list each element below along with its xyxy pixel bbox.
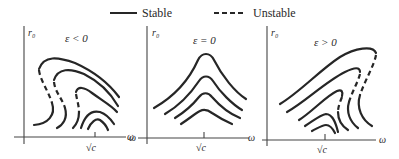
- r0-label: r₀: [28, 27, 36, 38]
- response-curve-stable: [181, 110, 232, 124]
- panel-title: ε < 0: [65, 32, 88, 44]
- sqrt-c-label: √c: [317, 144, 327, 155]
- response-curve-stable: [34, 103, 53, 125]
- panel-epsilon-positive: r₀ ε > 0 ω √c: [262, 26, 386, 155]
- legend: Stable Unstable: [110, 6, 296, 20]
- sqrt-c-label: √c: [86, 142, 96, 153]
- r0-label: r₀: [152, 27, 160, 38]
- response-curve-stable: [338, 112, 348, 130]
- panel-title: ε = 0: [193, 34, 216, 46]
- response-curve-unstable: [76, 94, 79, 112]
- omega-label-left: ω: [129, 132, 136, 143]
- sqrt-c-label: √c: [196, 142, 206, 153]
- panel-epsilon-negative: r₀ ε < 0 ω √c: [14, 26, 134, 153]
- response-curve-stable: [312, 125, 335, 133]
- response-curve-stable: [175, 93, 240, 118]
- panel-title: ε > 0: [314, 36, 337, 48]
- response-curve-stable: [73, 112, 79, 128]
- legend-stable-label: Stable: [142, 6, 172, 20]
- response-curve-unstable: [360, 55, 376, 95]
- response-curve-stable: [88, 119, 108, 130]
- response-curve-stable: [54, 70, 118, 106]
- response-curve-stable: [76, 88, 117, 112]
- omega-label: ω: [248, 132, 255, 143]
- response-curve-stable: [165, 77, 242, 115]
- r0-label: r₀: [271, 27, 279, 38]
- frequency-response-diagram: Stable Unstable r₀ ε < 0 ω √c r₀ ε =: [0, 0, 399, 159]
- response-curve-stable: [348, 102, 358, 128]
- omega-label: ω: [379, 134, 386, 145]
- legend-unstable-label: Unstable: [253, 6, 296, 20]
- response-curve-stable: [359, 95, 372, 126]
- response-curve-unstable: [54, 82, 65, 108]
- response-curve-unstable: [39, 70, 52, 103]
- panel-epsilon-zero: r₀ ε = 0 ω ω √c: [129, 26, 255, 153]
- response-curve-unstable: [338, 97, 342, 112]
- response-curve-stable: [57, 108, 66, 128]
